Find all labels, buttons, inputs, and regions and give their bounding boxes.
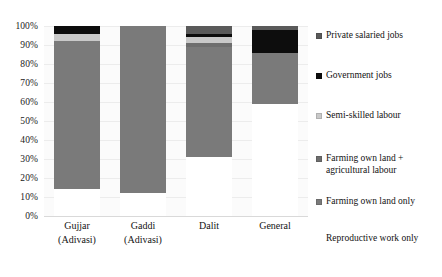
y-axis-tick-label: 80% [20,59,38,69]
category-label-line2: (Adivasi) [110,233,176,247]
bar-segment[interactable] [186,47,232,157]
bar-group [252,26,298,216]
bars-layer [44,26,308,216]
x-axis-category-label: General [242,219,308,233]
bar-segment[interactable] [120,26,166,193]
category-label-line1: Dalit [199,220,219,231]
bar-segment[interactable] [252,104,298,216]
y-axis-tick-label: 60% [20,97,38,107]
legend-item[interactable]: Reproductive work only [316,233,418,245]
category-label-line1: General [259,220,291,231]
bar-segment[interactable] [186,157,232,216]
legend-swatch-icon [316,236,322,242]
bar-segment[interactable] [186,26,232,34]
stacked-bar[interactable] [252,26,298,216]
legend-label: Private salaried jobs [326,30,403,42]
legend-swatch-icon [316,156,322,162]
y-axis-tick-label: 30% [20,154,38,164]
gridline [44,216,308,217]
legend-item[interactable]: Government jobs [316,70,392,82]
y-axis-tick-label: 20% [20,173,38,183]
bar-segment[interactable] [252,26,298,30]
y-axis-tick-label: 70% [20,78,38,88]
y-axis-tick-label: 90% [20,40,38,50]
legend-item[interactable]: Farming own land + agricultural labour [316,153,403,176]
bar-group [54,26,100,216]
chart-legend: Private salaried jobsGovernment jobsSemi… [316,18,442,258]
bar-segment[interactable] [120,193,166,216]
legend-swatch-icon [316,33,322,39]
y-axis-tick-label: 10% [20,192,38,202]
bar-segment[interactable] [252,53,298,104]
bar-segment[interactable] [186,43,232,47]
category-label-line1: Gaddi [131,220,155,231]
bar-segment[interactable] [54,34,100,42]
bar-segment[interactable] [186,37,232,43]
legend-item[interactable]: Farming own land only [316,196,415,208]
bar-segment[interactable] [54,26,100,34]
x-axis-category-label: Gaddi(Adivasi) [110,219,176,246]
legend-swatch-icon [316,73,322,79]
bar-segment[interactable] [186,34,232,38]
y-axis-tick-label: 50% [20,116,38,126]
bar-group [186,26,232,216]
y-axis: 100%90%80%70%60%50%40%30%20%10%0% [0,0,44,277]
stacked-bar[interactable] [120,26,166,216]
stacked-bar[interactable] [186,26,232,216]
legend-label: Government jobs [326,70,392,82]
plot-area [44,26,308,216]
legend-label: Semi-skilled labour [326,110,401,122]
y-axis-tick-label: 0% [25,211,38,221]
bar-segment[interactable] [54,189,100,216]
bar-segment[interactable] [54,41,100,189]
y-axis-tick-label: 100% [15,21,38,31]
x-axis-category-label: Dalit [176,219,242,233]
legend-swatch-icon [316,113,322,119]
x-axis-category-label: Gujjar(Adivasi) [44,219,110,246]
legend-swatch-icon [316,199,322,205]
stacked-bar-chart: 100%90%80%70%60%50%40%30%20%10%0% Gujjar… [0,0,442,277]
category-label-line1: Gujjar [64,220,90,231]
legend-item[interactable]: Private salaried jobs [316,30,403,42]
legend-label: Farming own land only [326,196,415,208]
bar-segment[interactable] [252,30,298,53]
legend-item[interactable]: Semi-skilled labour [316,110,401,122]
stacked-bar[interactable] [54,26,100,216]
y-axis-tick-label: 40% [20,135,38,145]
x-axis-labels: Gujjar(Adivasi)Gaddi(Adivasi)DalitGenera… [44,219,308,267]
category-label-line2: (Adivasi) [44,233,110,247]
legend-label: Reproductive work only [326,233,418,245]
legend-label: Farming own land + agricultural labour [326,153,403,176]
bar-group [120,26,166,216]
